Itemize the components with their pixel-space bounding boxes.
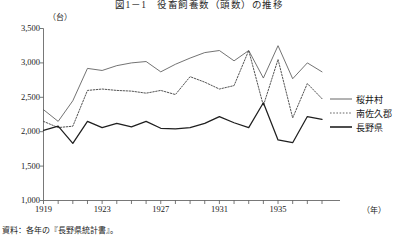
legend-label-1: 南佐久郡 bbox=[356, 107, 392, 120]
legend-item-0: 桜井村 bbox=[330, 92, 392, 106]
y-tick-label-1: 1,500 bbox=[0, 161, 40, 171]
legend-item-1: 南佐久郡 bbox=[330, 106, 392, 120]
y-tick-label-2: 2,000 bbox=[0, 126, 40, 136]
y-tick-label-3: 2,500 bbox=[0, 92, 40, 102]
y-tick-label-4: 3,000 bbox=[0, 57, 40, 67]
x-tick-label-3: 1931 bbox=[199, 204, 239, 214]
x-tick-label-4: 1935 bbox=[258, 204, 298, 214]
legend-label-2: 長野県 bbox=[356, 121, 383, 134]
x-tick-label-1: 1923 bbox=[82, 204, 122, 214]
axis-layer bbox=[40, 29, 340, 205]
series-line-桜井村 bbox=[44, 46, 323, 122]
series-layer bbox=[44, 46, 323, 144]
legend-swatch-solid-thick-icon bbox=[330, 123, 352, 131]
legend-label-0: 桜井村 bbox=[356, 93, 383, 106]
series-line-長野県 bbox=[44, 103, 323, 144]
series-line-南佐久郡 bbox=[44, 51, 323, 128]
legend-item-2: 長野県 bbox=[330, 120, 392, 134]
source-note: 資料：各年の『長野県統計書』。 bbox=[2, 224, 118, 235]
y-tick-label-5: 3,500 bbox=[0, 23, 40, 33]
x-tick-label-2: 1927 bbox=[141, 204, 181, 214]
figure-container: 図1－1 役畜飼養数（頭数）の推移 （台） 1,0001,5002,0002,5… bbox=[0, 0, 398, 238]
legend-swatch-solid-thin-icon bbox=[330, 95, 352, 103]
x-axis-unit-label: （年） bbox=[362, 204, 386, 215]
x-tick-label-0: 1919 bbox=[24, 204, 64, 214]
legend-swatch-dotted-icon bbox=[330, 109, 352, 117]
chart-legend: 桜井村 南佐久郡 長野県 bbox=[330, 92, 392, 134]
